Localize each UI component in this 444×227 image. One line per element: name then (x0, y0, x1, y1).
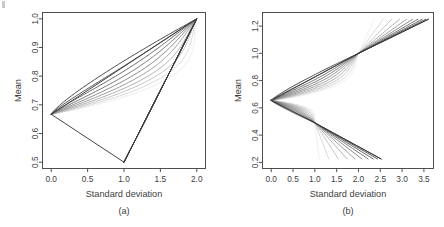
x-tick-label: 3.5 (418, 174, 430, 184)
x-axis-title: Standard deviation (86, 189, 163, 199)
curve-10 (51, 19, 197, 162)
panel-caption: (a) (118, 206, 129, 216)
curve-7 (51, 19, 197, 162)
panel-a-plot: 0.00.51.01.52.00.50.60.70.80.91.0Standar… (0, 0, 222, 227)
y-axis-title: Mean (13, 79, 23, 102)
y-tick-label: 0.4 (250, 129, 260, 141)
x-tick-label: 1.0 (309, 174, 321, 184)
curve-upper-9 (271, 19, 383, 100)
y-tick-label: 0.9 (30, 41, 40, 53)
y-tick-label: 1.0 (250, 47, 260, 59)
curve-3 (51, 19, 197, 162)
y-tick-label: 0.2 (250, 156, 260, 168)
curve-hull (51, 19, 197, 162)
curve-1 (51, 19, 197, 162)
x-tick-label: 2.0 (353, 174, 365, 184)
x-tick-label: 1.5 (331, 174, 343, 184)
curve-lower-7 (271, 100, 347, 159)
x-tick-label: 1.5 (155, 174, 167, 184)
curve-lower-5 (271, 100, 362, 159)
y-axis-title: Mean (233, 79, 243, 102)
curve-4 (51, 19, 197, 162)
x-tick-label: 0.0 (45, 174, 57, 184)
panel-b: 0.00.51.01.52.02.53.03.50.20.40.60.81.01… (222, 0, 444, 227)
curve-5 (51, 19, 197, 162)
figure-root: 0.00.51.01.52.00.50.60.70.80.91.0Standar… (0, 0, 444, 227)
y-tick-label: 0.8 (250, 74, 260, 86)
panel-a: 0.00.51.01.52.00.50.60.70.80.91.0Standar… (0, 0, 222, 227)
y-tick-label: 1.2 (250, 20, 260, 32)
curve-8 (51, 19, 197, 162)
y-tick-label: 0.8 (30, 70, 40, 82)
x-tick-label: 0.5 (82, 174, 94, 184)
y-tick-label: 0.6 (30, 127, 40, 139)
curve-6 (51, 19, 197, 162)
curve-9 (51, 19, 197, 162)
x-tick-label: 2.5 (375, 174, 387, 184)
panel-b-plot: 0.00.51.01.52.02.53.03.50.20.40.60.81.01… (222, 0, 444, 227)
x-tick-label: 3.0 (396, 174, 408, 184)
curve-upper-6 (271, 19, 406, 100)
x-tick-label: 2.0 (191, 174, 203, 184)
x-axis-title: Standard deviation (310, 189, 387, 199)
y-tick-label: 1.0 (30, 13, 40, 25)
x-tick-label: 0.5 (287, 174, 299, 184)
curve-2 (51, 19, 197, 162)
panel-caption: (b) (342, 206, 353, 216)
y-tick-label: 0.6 (250, 102, 260, 114)
y-tick-label: 0.5 (30, 156, 40, 168)
x-tick-label: 0.0 (265, 174, 277, 184)
x-tick-label: 1.0 (118, 174, 130, 184)
curve-lower-6 (271, 100, 355, 159)
y-tick-label: 0.7 (30, 99, 40, 111)
